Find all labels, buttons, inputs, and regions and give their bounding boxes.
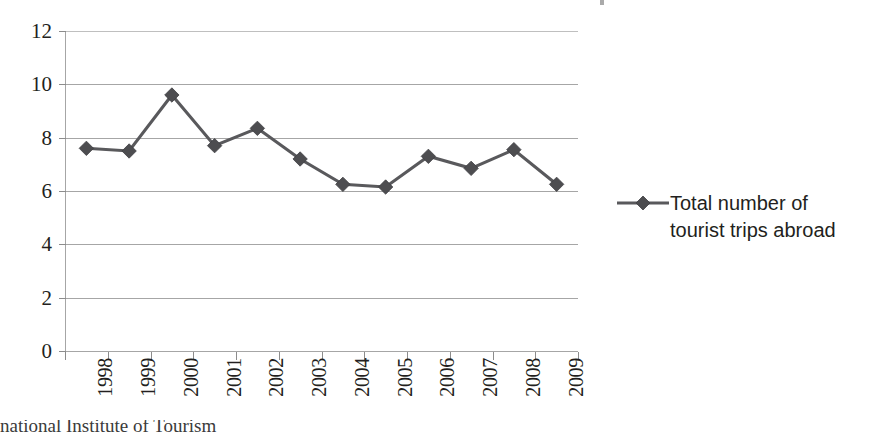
- x-axis-label-2001: 2001: [224, 358, 244, 397]
- y-axis-labels: 024681012: [0, 0, 52, 420]
- y-axis-label-6: 6: [8, 181, 52, 202]
- y-axis-label-0: 0: [8, 341, 52, 362]
- y-tick-4: [59, 244, 66, 245]
- y-tick-8: [59, 138, 66, 139]
- y-tick-12: [59, 31, 66, 32]
- series-markers: [79, 88, 564, 194]
- series-total-tourist-trips-abroad: [65, 31, 578, 351]
- y-axis-label-2: 2: [8, 288, 52, 309]
- x-axis-label-2002: 2002: [266, 358, 286, 397]
- source-note: national Institute of Tourism: [0, 420, 560, 439]
- x-axis-label-2005: 2005: [395, 358, 415, 397]
- x-axis-label-2009: 2009: [566, 358, 586, 397]
- series-line: [86, 95, 556, 187]
- y-tick-0: [59, 351, 66, 352]
- x-axis-label-2007: 2007: [480, 358, 500, 397]
- x-axis-label-1998: 1998: [95, 358, 115, 397]
- x-axis-label-2008: 2008: [523, 358, 543, 397]
- legend-marker-icon: [616, 192, 670, 214]
- x-axis-label-2004: 2004: [352, 358, 372, 397]
- data-point-1998: [79, 141, 93, 155]
- data-point-2007: [464, 161, 478, 175]
- line-chart: 024681012 199819992000200120022003200420…: [0, 0, 600, 420]
- source-note-text: national Institute of Tourism: [0, 420, 216, 437]
- x-axis-label-2000: 2000: [181, 358, 201, 397]
- y-axis-label-12: 12: [8, 21, 52, 42]
- x-axis-label-1999: 1999: [138, 358, 158, 397]
- x-tick-0: [65, 352, 66, 360]
- x-axis-label-2006: 2006: [437, 358, 457, 397]
- legend-label: Total number of tourist trips abroad: [670, 190, 866, 244]
- y-tick-10: [59, 84, 66, 85]
- x-axis-label-2003: 2003: [309, 358, 329, 397]
- data-point-2004: [336, 177, 350, 191]
- y-tick-2: [59, 298, 66, 299]
- y-axis-label-8: 8: [8, 128, 52, 149]
- chart-page: 024681012 199819992000200120022003200420…: [0, 0, 878, 439]
- y-axis-label-10: 10: [8, 74, 52, 95]
- y-tick-6: [59, 191, 66, 192]
- plot-area: [65, 31, 578, 351]
- chart-legend: Total number of tourist trips abroad: [616, 190, 878, 244]
- y-axis-label-4: 4: [8, 234, 52, 255]
- scan-artifact: [600, 0, 604, 5]
